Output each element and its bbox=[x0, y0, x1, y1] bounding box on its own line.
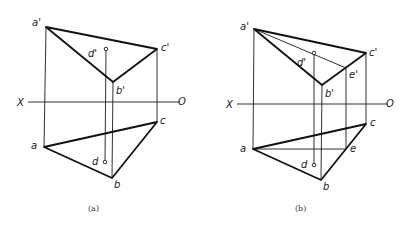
panel-a: a' d' c' b' X O c a d b (a) bbox=[16, 17, 186, 213]
label-d: d bbox=[301, 159, 308, 170]
label-c-prime: c' bbox=[161, 42, 169, 53]
label-d: d bbox=[92, 156, 99, 167]
label-a: a bbox=[31, 140, 37, 151]
label-b: b bbox=[114, 179, 120, 190]
label-x: X bbox=[225, 99, 234, 110]
label-o: O bbox=[178, 96, 186, 107]
point-d bbox=[103, 160, 107, 164]
projector-b bbox=[112, 82, 113, 178]
point-d-prime bbox=[312, 51, 316, 55]
triangle-top-view bbox=[44, 122, 157, 178]
label-c-prime: c' bbox=[369, 47, 377, 58]
label-c: c bbox=[370, 117, 376, 128]
label-e: e bbox=[350, 143, 356, 154]
projection-diagram: a' d' c' b' X O c a d b (a) a' d' c' e' bbox=[0, 0, 411, 228]
projector-a bbox=[253, 29, 254, 149]
label-x: X bbox=[16, 97, 25, 108]
label-b-prime: b' bbox=[325, 88, 334, 99]
panel-b: a' d' c' e' b' X O c a e d b (b) bbox=[225, 21, 394, 213]
caption-a: (a) bbox=[88, 204, 99, 213]
label-d-prime: d' bbox=[88, 48, 97, 59]
label-a-prime: a' bbox=[32, 17, 41, 28]
label-b: b bbox=[323, 181, 329, 192]
caption-b: (b) bbox=[295, 204, 306, 213]
projector-b bbox=[321, 85, 322, 180]
label-c: c bbox=[160, 115, 166, 126]
projector-a bbox=[44, 27, 46, 147]
label-e-prime: e' bbox=[349, 69, 358, 80]
point-d-prime bbox=[104, 47, 108, 51]
label-b-prime: b' bbox=[116, 85, 125, 96]
point-d bbox=[312, 163, 316, 167]
projector-d bbox=[105, 49, 106, 162]
label-a: a bbox=[240, 143, 246, 154]
triangle-front-view bbox=[46, 27, 157, 82]
label-d-prime: d' bbox=[297, 57, 306, 68]
label-a-prime: a' bbox=[240, 21, 249, 32]
label-o: O bbox=[386, 98, 394, 109]
